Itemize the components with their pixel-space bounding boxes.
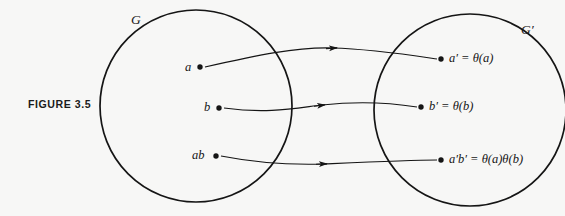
set-label-domain: G (131, 12, 141, 28)
element-label-b-prime: b′ = θ(b) (429, 99, 473, 114)
mapping-curve-ab (221, 156, 437, 164)
point-dot-icon-a (197, 64, 202, 69)
mapping-curves (205, 48, 437, 164)
arrowhead-icon-a (326, 48, 337, 49)
element-label-a-prime: a′ = θ(a) (449, 51, 493, 66)
set-label-codomain: G′ (521, 22, 534, 38)
element-label-a: a (185, 60, 191, 75)
point-dot-icon-b-prime (418, 104, 423, 109)
mapping-curve-b (224, 103, 417, 111)
element-label-b: b (204, 100, 210, 115)
set-circles (100, 10, 565, 206)
arrowhead-icon-b (314, 105, 325, 106)
point-dot-icon-b (216, 105, 221, 110)
point-dot-icon-a-prime (438, 56, 443, 61)
element-label-ab-prime: a′b′ = θ(a)θ(b) (449, 152, 523, 167)
figure-caption: FIGURE 3.5 (28, 98, 91, 110)
set-circle-domain (100, 10, 292, 202)
figure-container: FIGURE 3.5 G G′ a b ab a′ = θ(a) b′ = θ(… (0, 0, 565, 216)
point-dot-icon-ab (213, 153, 218, 158)
element-label-ab: ab (192, 148, 205, 163)
mapping-curve-a (205, 48, 437, 67)
point-dot-icon-ab-prime (438, 157, 443, 162)
mapping-arrowheads (314, 48, 337, 164)
